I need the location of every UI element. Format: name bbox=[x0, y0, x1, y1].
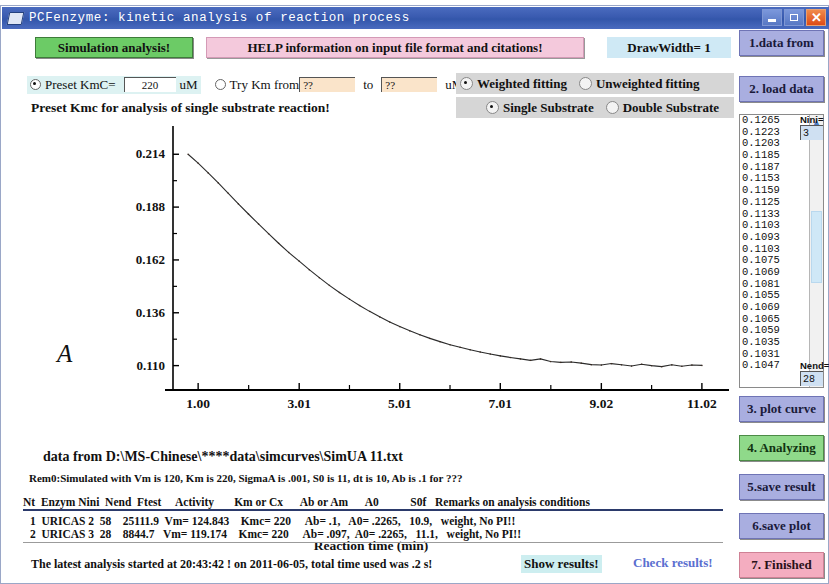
simulation-remark: Rem0:Simulated with Vm is 120, Km is 220… bbox=[29, 472, 463, 484]
minimize-icon bbox=[768, 19, 776, 22]
title-bar: PCFenzyme: kinetic analysis of reaction … bbox=[2, 7, 829, 29]
y-axis-tick-label: 0.188 bbox=[111, 199, 165, 215]
weighted-fitting-label: Weighted fitting bbox=[477, 76, 567, 92]
preset-kmc-input[interactable] bbox=[124, 77, 176, 92]
double-substrate-radio[interactable] bbox=[606, 101, 619, 114]
try-km-group[interactable]: Try Km from to uM bbox=[215, 77, 464, 93]
simulation-analysis-button[interactable]: Simulation analysis! bbox=[35, 37, 193, 58]
nini-label: Nini= bbox=[800, 114, 824, 125]
sidebar: 1.data from2. load data3. plot curve4. A… bbox=[737, 30, 828, 584]
nini-input[interactable]: 3 bbox=[800, 125, 823, 140]
x-axis-tick-label: 1.00 bbox=[168, 396, 228, 412]
sidebar-button-7[interactable]: 7. Finished bbox=[739, 552, 824, 578]
status-message: The latest analysis started at 20:43:42 … bbox=[31, 557, 432, 572]
sidebar-button-4[interactable]: 4. Analyzing bbox=[739, 435, 824, 461]
preset-kmc-hint: Preset Kmc for analysis of single substr… bbox=[31, 100, 330, 116]
x-axis-tick-label: 11.02 bbox=[672, 396, 732, 412]
unweighted-fitting-radio[interactable] bbox=[579, 77, 592, 90]
sidebar-button-3[interactable]: 3. plot curve bbox=[739, 396, 824, 422]
results-table-header: Nt Enzym Nini Nend Ftest Activity Km or … bbox=[23, 496, 590, 508]
nend-label: Nend= bbox=[800, 360, 829, 371]
preset-kmc-label: Preset KmC= bbox=[45, 77, 116, 93]
table-divider bbox=[23, 509, 723, 511]
y-axis-tick-label: 0.110 bbox=[111, 358, 165, 374]
unweighted-fitting-label: Unweighted fitting bbox=[596, 76, 700, 92]
y-axis-label: A bbox=[57, 340, 72, 368]
window-title: PCFenzyme: kinetic analysis of reaction … bbox=[29, 11, 410, 25]
drawwidth-label: DrawWidth= 1 bbox=[607, 37, 731, 58]
try-km-to-input[interactable] bbox=[381, 77, 437, 92]
y-axis-tick-label: 0.136 bbox=[111, 305, 165, 321]
try-km-label: Try Km from bbox=[230, 77, 300, 93]
nend-input[interactable]: 28 bbox=[800, 371, 823, 386]
try-km-from-input[interactable] bbox=[299, 77, 355, 92]
data-source-path: data from D:\MS-Chinese\****data\simcurv… bbox=[43, 449, 403, 465]
x-axis-tick-label: 3.01 bbox=[269, 396, 329, 412]
x-axis-label: Reaction time (min) bbox=[21, 538, 721, 554]
status-divider bbox=[23, 542, 723, 543]
check-results-button[interactable]: Check results! bbox=[633, 555, 713, 571]
table-row[interactable]: 2 URICAS 3 28 8844.7 Vm= 119.174 Kmc= 22… bbox=[27, 528, 521, 540]
try-km-radio[interactable] bbox=[215, 79, 226, 90]
sidebar-button-1[interactable]: 1.data from bbox=[739, 30, 824, 56]
preset-kmc-group[interactable]: Preset KmC= uM bbox=[27, 76, 201, 94]
y-axis-tick-label: 0.214 bbox=[111, 146, 165, 162]
x-axis-tick-label: 9.02 bbox=[571, 396, 631, 412]
application-window: PCFenzyme: kinetic analysis of reaction … bbox=[0, 5, 829, 584]
plot-area: A 0.2140.1880.1620.1360.110 1.003.015.01… bbox=[21, 118, 731, 438]
table-row[interactable]: 1 URICAS 2 58 25111.9 Vm= 124.843 Kmc= 2… bbox=[27, 515, 515, 527]
try-km-to-label: to bbox=[363, 77, 373, 93]
maximize-button[interactable] bbox=[784, 9, 804, 26]
sidebar-button-2[interactable]: 2. load data bbox=[739, 76, 824, 102]
x-axis-tick-label: 5.01 bbox=[370, 396, 430, 412]
scrollbar-thumb[interactable] bbox=[811, 211, 822, 283]
data-values-listbox[interactable]: 0.12650.12230.12030.11850.11870.11530.11… bbox=[739, 114, 824, 388]
single-substrate-label: Single Substrate bbox=[503, 100, 594, 116]
substrate-mode-row: Single Substrate Double Substrate bbox=[456, 97, 734, 118]
help-information-button[interactable]: HELP information on input file format an… bbox=[206, 37, 584, 58]
preset-kmc-unit: uM bbox=[180, 77, 198, 93]
close-icon: ✕ bbox=[811, 11, 822, 24]
sidebar-button-6[interactable]: 6.save plot bbox=[739, 513, 824, 539]
y-axis-tick-label: 0.162 bbox=[111, 252, 165, 268]
window-controls: ✕ bbox=[762, 9, 826, 26]
app-icon bbox=[7, 12, 25, 25]
sidebar-button-5[interactable]: 5.save result bbox=[739, 474, 824, 500]
preset-kmc-radio[interactable] bbox=[30, 79, 41, 90]
fitting-mode-row: Weighted fitting Unweighted fitting bbox=[456, 73, 734, 94]
minimize-button[interactable] bbox=[762, 9, 782, 26]
show-results-button[interactable]: Show results! bbox=[521, 555, 602, 573]
double-substrate-label: Double Substrate bbox=[623, 100, 719, 116]
weighted-fitting-radio[interactable] bbox=[460, 77, 473, 90]
single-substrate-radio[interactable] bbox=[486, 101, 499, 114]
x-axis-tick-label: 7.01 bbox=[470, 396, 530, 412]
close-button[interactable]: ✕ bbox=[806, 9, 826, 26]
kmc-options-row: Preset KmC= uM Try Km from to uM bbox=[27, 75, 463, 94]
maximize-icon bbox=[790, 14, 798, 21]
listbox-scrollbar[interactable]: ▲ ▼ bbox=[809, 115, 823, 387]
